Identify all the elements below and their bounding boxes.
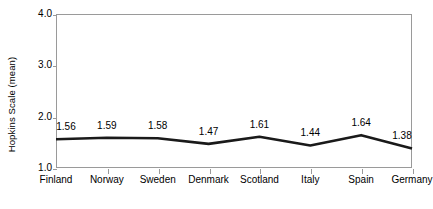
data-label: 1.59 xyxy=(97,121,116,131)
x-tick-label: Sweden xyxy=(140,174,176,186)
x-tick-label: Scotland xyxy=(240,174,279,186)
data-line-layer xyxy=(56,14,412,168)
y-tick-mark xyxy=(53,169,57,170)
data-label: 1.38 xyxy=(392,131,411,141)
x-axis-tick-labels: FinlandNorwaySwedenDenmarkScotlandItalyS… xyxy=(56,174,412,194)
x-tick-label: Denmark xyxy=(188,174,229,186)
x-tick-label: Germany xyxy=(391,174,432,186)
data-label: 1.56 xyxy=(56,122,75,132)
y-tick-label: 1.0 xyxy=(18,163,52,173)
y-tick-label: 3.0 xyxy=(18,60,52,70)
y-tick-label: 2.0 xyxy=(18,112,52,122)
x-tick-label: Spain xyxy=(348,174,374,186)
x-tick-label: Norway xyxy=(90,174,124,186)
data-label: 1.47 xyxy=(199,127,218,137)
data-label: 1.58 xyxy=(148,121,167,131)
data-label: 1.61 xyxy=(250,120,269,130)
x-tick-label: Finland xyxy=(40,174,73,186)
data-label: 1.64 xyxy=(351,118,370,128)
data-series-line xyxy=(56,135,412,148)
x-tick-label: Italy xyxy=(301,174,319,186)
y-tick-label: 4.0 xyxy=(18,9,52,19)
data-label: 1.44 xyxy=(301,128,320,138)
